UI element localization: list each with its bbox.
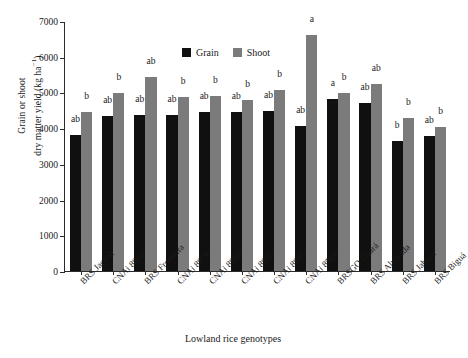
bar-shoot (242, 100, 253, 271)
bar-group: abab (134, 22, 156, 271)
bar-group: abb (199, 22, 221, 271)
y-tick-label: 6000 (39, 53, 58, 63)
bar-shoot (113, 93, 124, 271)
bar-group: abb (424, 22, 446, 271)
y-axis-title-line1: Grain or shoot (17, 77, 27, 133)
bar-shoot (338, 93, 349, 271)
significance-letter: ab (360, 82, 369, 92)
significance-letter: b (395, 120, 400, 130)
significance-letter: ab (103, 95, 112, 105)
y-tick-label: 4000 (39, 124, 58, 134)
bar-shoot (210, 96, 221, 271)
legend-swatch-icon (182, 48, 191, 57)
significance-letter: ab (200, 91, 209, 101)
significance-letter: a (331, 78, 335, 88)
bar-shoot (145, 77, 156, 271)
significance-letter: ab (264, 90, 273, 100)
y-tick-label: 2000 (39, 196, 58, 206)
bar-group: abb (70, 22, 92, 271)
bar-group: bb (392, 22, 414, 271)
significance-letter: ab (71, 114, 80, 124)
bar-grain (134, 115, 145, 271)
bar-grain (327, 99, 338, 271)
significance-letter: ab (296, 105, 305, 115)
significance-letter: b (277, 69, 282, 79)
bar-grain (263, 111, 274, 271)
y-tick-label: 1000 (39, 231, 58, 241)
bar-shoot (435, 127, 446, 271)
significance-letter: b (116, 72, 121, 82)
significance-letter: b (84, 91, 89, 101)
significance-letter: ab (135, 94, 144, 104)
significance-letter: b (245, 79, 250, 89)
significance-letter: ab (425, 115, 434, 125)
significance-letter: b (213, 75, 218, 85)
x-axis-title: Lowland rice genotypes (0, 333, 466, 344)
bar-grain (70, 135, 81, 271)
significance-letter: a (310, 14, 314, 24)
y-axis-title-exponent: −1 (30, 59, 38, 67)
bar-series-container: abbabbabababbabbabbabbabaabababbbabb (65, 22, 450, 271)
y-axis-title-line2: dry matter yield (kg ha−1) (28, 6, 43, 206)
y-tick-label: 5000 (39, 88, 58, 98)
y-tick-label: 0 (53, 267, 58, 277)
bar-shoot (274, 90, 285, 271)
bar-shoot (306, 35, 317, 271)
bar-group: abb (263, 22, 285, 271)
y-tick-mark (60, 272, 65, 273)
significance-letter: b (342, 72, 347, 82)
y-tick-label: 7000 (39, 17, 58, 27)
significance-letter: ab (372, 63, 381, 73)
significance-letter: b (181, 76, 186, 86)
significance-letter: ab (232, 91, 241, 101)
legend-label: Shoot (247, 47, 270, 58)
bar-grain (231, 112, 242, 271)
bar-group: aba (295, 22, 317, 271)
significance-letter: ab (147, 56, 156, 66)
chart-legend: GrainShoot (182, 47, 270, 58)
significance-letter: ab (167, 94, 176, 104)
y-axis-title: Grain or shoot dry matter yield (kg ha−1… (16, 6, 43, 206)
legend-swatch-icon (233, 48, 242, 57)
y-axis-title-line2-text: dry matter yield (kg ha (33, 66, 43, 155)
bar-group: abb (166, 22, 188, 271)
bar-group: abab (359, 22, 381, 271)
plot-area: 01000200030004000500060007000 abbabbabab… (64, 22, 450, 272)
bar-grain (199, 112, 210, 271)
bar-group: ab (327, 22, 349, 271)
bar-shoot (81, 112, 92, 271)
legend-item-grain: Grain (182, 47, 219, 58)
legend-item-shoot: Shoot (233, 47, 270, 58)
significance-letter: b (406, 97, 411, 107)
y-tick-label: 3000 (39, 160, 58, 170)
significance-letter: b (438, 106, 443, 116)
legend-label: Grain (196, 47, 219, 58)
bar-group: abb (102, 22, 124, 271)
bar-group: abb (231, 22, 253, 271)
